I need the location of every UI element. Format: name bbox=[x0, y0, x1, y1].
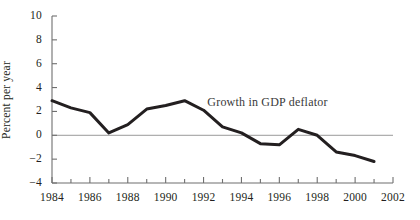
y-axis-tick-label: 4 bbox=[0, 82, 42, 94]
y-axis-tick-label: 8 bbox=[0, 34, 42, 46]
y-axis-label: Percent per year bbox=[0, 61, 12, 139]
x-axis-tick-label: 1998 bbox=[305, 192, 329, 204]
y-axis-tick-label: 10 bbox=[0, 10, 42, 22]
x-axis-tick-label: 1986 bbox=[78, 192, 102, 204]
x-axis-tick-label: 1988 bbox=[116, 192, 140, 204]
x-axis-tick-label: 2000 bbox=[343, 192, 367, 204]
x-axis-tick-label: 1990 bbox=[154, 192, 178, 204]
series-annotation-label: Growth in GDP deflator bbox=[207, 95, 327, 110]
y-axis-tick-label: −2 bbox=[0, 153, 42, 165]
chart-container: Percent per year −4−20246810 19841986198… bbox=[0, 0, 420, 220]
y-axis-tick-label: 2 bbox=[0, 106, 42, 118]
y-axis-tick-label: 6 bbox=[0, 58, 42, 70]
x-axis-tick-label: 1994 bbox=[230, 192, 254, 204]
x-axis-tick-label: 2002 bbox=[381, 192, 405, 204]
x-axis-tick-label: 1984 bbox=[40, 192, 64, 204]
y-axis-tick-label: 0 bbox=[0, 130, 42, 142]
x-axis-tick-label: 1996 bbox=[267, 192, 291, 204]
x-axis-tick-label: 1992 bbox=[192, 192, 216, 204]
y-axis-tick-label: −4 bbox=[0, 177, 42, 189]
